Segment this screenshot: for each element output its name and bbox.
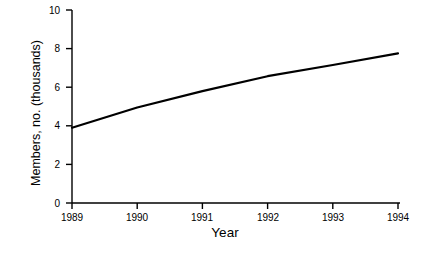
y-axis-label: Members, no. (thousands)	[29, 13, 43, 213]
x-axis-label: Year	[135, 225, 315, 240]
x-tick-label-1991: 1991	[179, 212, 225, 223]
chart-figure: 0 2 4 6 8 10 1989 1990 1991 1992 1993 19…	[0, 0, 432, 253]
x-tick-label-1989: 1989	[49, 212, 95, 223]
x-tick-label-1993: 1993	[310, 212, 356, 223]
x-tick-label-1994: 1994	[375, 212, 421, 223]
data-line-members	[72, 53, 398, 127]
x-tick-marks	[72, 203, 398, 209]
x-tick-label-1992: 1992	[245, 212, 291, 223]
y-tick-marks	[66, 10, 72, 203]
x-tick-label-1990: 1990	[114, 212, 160, 223]
